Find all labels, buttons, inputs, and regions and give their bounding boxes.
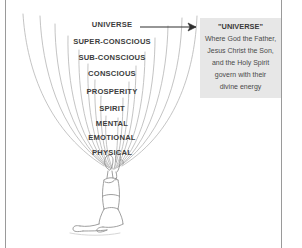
- level-label-conscious: CONSCIOUS: [0, 70, 224, 78]
- callout-title: "UNIVERSE": [203, 22, 278, 31]
- level-label-mental: MENTAL: [0, 120, 224, 128]
- level-label-physical: PHYSICAL: [0, 149, 224, 157]
- callout-line: Where God the Father,: [203, 33, 278, 45]
- diagram-canvas: UNIVERSE SUPER-CONSCIOUS SUB-CONSCIOUS C…: [0, 0, 302, 248]
- callout-line: divine energy: [203, 81, 278, 93]
- level-label-sub-conscious: SUB-CONSCIOUS: [0, 54, 224, 62]
- level-label-universe: UNIVERSE: [0, 21, 224, 29]
- callout-line: govern with their: [203, 69, 278, 81]
- callout-line: Jesus Christ the Son,: [203, 45, 278, 57]
- level-label-super-conscious: SUPER-CONSCIOUS: [0, 38, 224, 46]
- callout-box: "UNIVERSE" Where God the Father, Jesus C…: [200, 18, 281, 98]
- callout-line: and the Holy Spirit: [203, 57, 278, 69]
- level-label-emotional: EMOTIONAL: [0, 134, 224, 142]
- level-label-prosperity: PROSPERITY: [0, 88, 224, 96]
- level-label-spirit: SPIRIT: [0, 105, 224, 113]
